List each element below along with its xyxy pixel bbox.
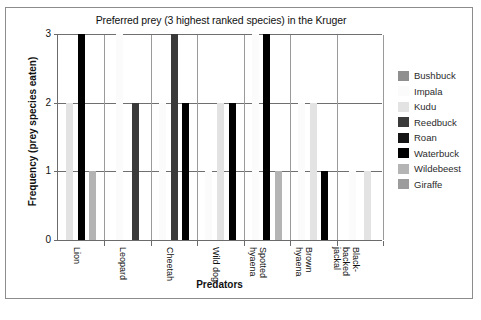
legend-swatch-icon [398, 71, 409, 81]
legend-swatch-icon [398, 179, 409, 189]
legend-swatch-icon [398, 86, 409, 96]
y-axis-tick-label: 0 [17, 234, 51, 245]
bar [252, 34, 259, 240]
legend-label: Giraffe [414, 179, 442, 190]
x-axis-tick-mark [197, 241, 198, 246]
legend-item[interactable]: Waterbuck [398, 146, 481, 162]
bar [89, 171, 96, 240]
x-axis-tick-label: Leopard [104, 247, 150, 307]
bar [205, 171, 212, 240]
bar [217, 103, 224, 240]
category-separator [290, 35, 291, 240]
legend-swatch-icon [398, 102, 409, 112]
legend-swatch-icon [398, 148, 409, 158]
x-axis-tick-label: Lion [58, 247, 104, 307]
x-axis-tick-label: Spottedhyaena [244, 247, 290, 307]
y-axis-tick-mark [54, 240, 58, 241]
category-separator [383, 35, 384, 240]
category-separator [197, 35, 198, 240]
legend-item[interactable]: Giraffe [398, 177, 481, 193]
x-axis-tick-mark [337, 241, 338, 246]
category-separator [337, 35, 338, 240]
bar [171, 34, 178, 240]
legend-item[interactable]: Wildebeest [398, 161, 481, 177]
x-axis-tick-label: Wild dog [197, 247, 243, 307]
bar [159, 103, 166, 240]
legend-item[interactable]: Impala [398, 84, 481, 100]
bar [229, 103, 236, 240]
x-axis-tick-label: Brownhyaena [290, 247, 336, 307]
category-separator [244, 35, 245, 240]
x-axis-tick-mark [104, 241, 105, 246]
bar [310, 103, 317, 240]
legend-item[interactable]: Kudu [398, 99, 481, 115]
legend-swatch-icon [398, 164, 409, 174]
bar [66, 103, 73, 240]
plot-area: 0123LionLeopardCheetahWild dogSpottedhya… [57, 35, 382, 241]
bar [263, 34, 270, 240]
bar [275, 171, 282, 240]
legend-label: Impala [414, 86, 443, 97]
y-axis-title: Frequency (prey species eaten) [27, 32, 38, 232]
gridline [58, 34, 382, 35]
bar [364, 171, 371, 240]
x-axis-tick-label: Cheetah [151, 247, 197, 307]
legend-label: Waterbuck [414, 148, 459, 159]
x-axis-tick-mark [244, 241, 245, 246]
legend-label: Roan [414, 132, 437, 143]
x-axis-tick-mark [290, 241, 291, 246]
y-axis-tick-label: 3 [17, 28, 51, 39]
bar [78, 34, 85, 240]
x-axis-tick-mark [383, 241, 384, 246]
legend-label: Kudu [414, 101, 436, 112]
y-axis-tick-mark [54, 103, 58, 104]
bar [116, 34, 123, 240]
y-axis-tick-label: 2 [17, 97, 51, 108]
y-axis-tick-label: 1 [17, 165, 51, 176]
legend-swatch-icon [398, 133, 409, 143]
legend-label: Reedbuck [414, 117, 457, 128]
legend-swatch-icon [398, 117, 409, 127]
y-axis-tick-mark [54, 34, 58, 35]
bar [349, 171, 356, 240]
chart-title: Preferred prey (3 highest ranked species… [46, 14, 396, 26]
chart-legend: BushbuckImpalaKuduReedbuckRoanWaterbuckW… [398, 68, 481, 192]
legend-label: Bushbuck [414, 70, 456, 81]
chart-figure: Preferred prey (3 highest ranked species… [5, 7, 473, 299]
legend-item[interactable]: Reedbuck [398, 115, 481, 131]
legend-item[interactable]: Roan [398, 130, 481, 146]
category-separator [104, 35, 105, 240]
bar [132, 103, 139, 240]
bar [321, 171, 328, 240]
x-axis-title: Predators [57, 279, 382, 290]
legend-item[interactable]: Bushbuck [398, 68, 481, 84]
legend-label: Wildebeest [414, 163, 461, 174]
bar [182, 103, 189, 240]
category-separator [151, 35, 152, 240]
bar [298, 103, 305, 240]
x-axis-tick-mark [151, 241, 152, 246]
y-axis-tick-mark [54, 171, 58, 172]
x-axis-tick-label: Black-backedjackal [337, 247, 383, 307]
